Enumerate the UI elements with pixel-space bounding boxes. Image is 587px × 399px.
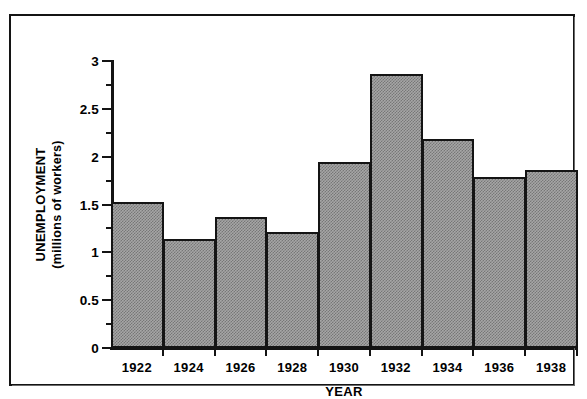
y-axis-tick-minor (106, 132, 111, 134)
y-axis-tick-major (102, 156, 111, 158)
x-axis-tick (576, 348, 578, 356)
x-axis-tick (472, 348, 474, 356)
bar-1926 (215, 217, 268, 348)
y-axis-tick-label: 1 (91, 245, 99, 260)
y-axis-tick-minor (106, 180, 111, 182)
x-axis-tick-label: 1930 (329, 360, 359, 375)
x-axis-tick-label: 1928 (277, 360, 307, 375)
x-axis-tick (214, 348, 216, 356)
chart-frame-border: UNEMPLOYMENT (millions of workers) 00.51… (9, 14, 575, 386)
bar-1924 (163, 239, 216, 348)
y-axis-tick-label: 0 (91, 341, 99, 356)
y-axis-title: UNEMPLOYMENT (millions of workers) (29, 61, 69, 348)
bar-1928 (266, 232, 319, 348)
x-axis-tick (369, 348, 371, 356)
x-axis-tick-label: 1934 (432, 360, 462, 375)
bar-1932 (370, 74, 423, 348)
y-axis-tick-major (102, 108, 111, 110)
x-axis-tick-label: 1922 (122, 360, 152, 375)
x-axis-tick-label: 1926 (225, 360, 255, 375)
y-axis-tick-major (102, 60, 111, 62)
unemployment-bar-chart-figure: UNEMPLOYMENT (millions of workers) 00.51… (0, 0, 587, 399)
bar-1938 (525, 170, 578, 348)
y-axis-tick-major (102, 204, 111, 206)
y-axis-tick-major (102, 347, 111, 349)
y-axis-tick-major (102, 251, 111, 253)
y-axis-tick-label: 1.5 (80, 197, 99, 212)
bar-1936 (473, 177, 526, 348)
x-axis-tick (524, 348, 526, 356)
bar-1922 (111, 202, 164, 348)
y-axis-title-line2: (millions of workers) (50, 140, 64, 269)
bar-1934 (422, 139, 475, 349)
x-axis-tick (317, 348, 319, 356)
plot-area: 00.511.522.53192219241926192819301932193… (111, 61, 577, 348)
x-axis-title: YEAR (111, 384, 577, 399)
y-axis-tick-minor (106, 84, 111, 86)
bar-1930 (318, 162, 371, 348)
x-axis-tick (162, 348, 164, 356)
x-axis-tick-label: 1936 (484, 360, 514, 375)
x-axis-tick (421, 348, 423, 356)
x-axis-tick-label: 1932 (381, 360, 411, 375)
x-axis-tick (265, 348, 267, 356)
x-axis-tick-label: 1924 (174, 360, 204, 375)
y-axis-tick-label: 0.5 (80, 293, 99, 308)
y-axis-tick-label: 3 (91, 54, 99, 69)
x-axis-tick-label: 1938 (536, 360, 566, 375)
y-axis-title-line1: UNEMPLOYMENT (33, 147, 48, 261)
y-axis-tick-major (102, 299, 111, 301)
y-axis-tick-label: 2.5 (80, 101, 99, 116)
y-axis-tick-label: 2 (91, 149, 99, 164)
